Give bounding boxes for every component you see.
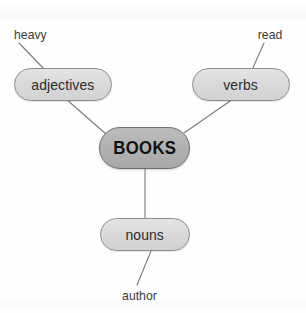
edge-nouns-author	[137, 251, 151, 285]
node-verbs[interactable]: verbs	[192, 68, 290, 101]
leaf-label-author-text: author	[122, 288, 157, 303]
leaf-label-author: author	[121, 288, 158, 303]
edge-adjectives-books	[66, 99, 106, 134]
node-verbs-label: verbs	[224, 76, 259, 93]
concept-map-canvas: adjectives verbs BOOKS nouns heavy read …	[0, 0, 306, 313]
edge-heavy-adjectives	[19, 43, 45, 70]
node-adjectives-label: adjectives	[32, 76, 95, 93]
edge-read-verbs	[252, 43, 264, 70]
node-nouns[interactable]: nouns	[100, 218, 190, 251]
leaf-label-heavy-text: heavy	[14, 27, 47, 42]
edge-verbs-books	[184, 99, 233, 133]
node-nouns-label: nouns	[126, 226, 164, 243]
leaf-label-heavy: heavy	[13, 27, 48, 42]
leaf-label-read: read	[257, 27, 283, 42]
leaf-label-read-text: read	[258, 27, 282, 42]
node-books-label: BOOKS	[113, 137, 176, 159]
node-adjectives[interactable]: adjectives	[14, 68, 112, 101]
node-books-central[interactable]: BOOKS	[99, 127, 190, 169]
